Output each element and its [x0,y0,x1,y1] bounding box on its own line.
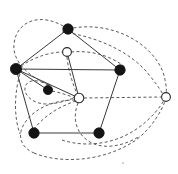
solid-edge-n7-n8 [67,52,79,98]
node-mid-left[interactable] [43,85,52,94]
solid-edge-n3-n6 [99,70,120,133]
dashed-edge-n2-bottom-sweep [16,74,21,134]
node-top[interactable] [63,24,73,34]
node-left[interactable] [10,63,21,74]
dashed-edge-n8-lower-arc [21,100,76,153]
solid-edge-n1-n3 [68,29,120,70]
node-right[interactable] [115,65,125,75]
dashed-edge-n8-n5-arc [34,101,76,129]
dashed-edge-n8-n6-arc [75,103,140,146]
node-bottom-right[interactable] [94,128,104,138]
node-bottom-left[interactable] [29,128,39,138]
node-upper-open[interactable] [63,48,72,57]
dashed-edge-n1-n9-outer [14,20,68,86]
scan-speck-icon [122,162,124,164]
graph-figure [0,0,178,174]
dashed-edge-n2-n7-n3 [21,52,63,66]
dashed-edge-layer [14,20,167,160]
node-far-right-open[interactable] [162,93,171,102]
solid-edge-n2-n3 [16,69,120,70]
solid-edge-n1-n2 [16,29,68,69]
node-center-open[interactable] [74,93,84,103]
dashed-edge-n1-n9-top [68,27,166,93]
dashed-edge-n6-n9-bottom [62,100,164,144]
graph-canvas [0,0,178,174]
dashed-edge-n7-n8 [67,57,77,94]
dashed-edge-n8-n9 [84,97,161,98]
